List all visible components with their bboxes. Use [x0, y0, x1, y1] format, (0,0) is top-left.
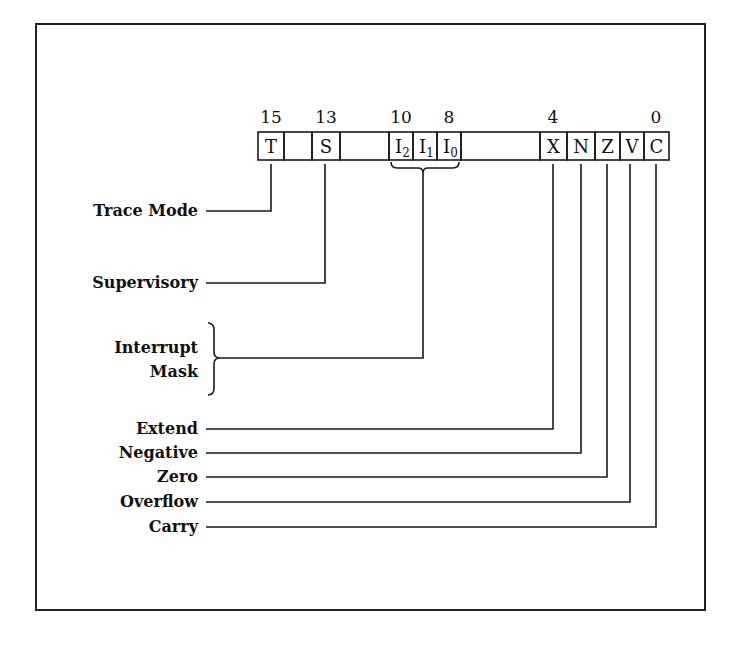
cell-label-s: S [320, 136, 332, 157]
bit-number-15: 15 [260, 107, 282, 127]
bit-number-10: 10 [390, 107, 412, 127]
label-negative: Negative [119, 443, 198, 462]
cell-label-i0: I0 [443, 136, 458, 160]
cell-label-z: Z [601, 136, 614, 157]
label-zero: Zero [157, 467, 198, 486]
connector-lines [206, 164, 656, 527]
overflow-connector [206, 164, 630, 502]
label-supervisory: Supervisory [92, 273, 198, 292]
cell-label-x: X [547, 136, 560, 157]
bit-number-13: 13 [315, 107, 337, 127]
bit-numbers: 15 13 10 8 4 0 [260, 107, 661, 127]
label-overflow: Overflow [120, 492, 199, 511]
cell-label-t: T [265, 136, 277, 157]
field-labels: Trace Mode Supervisory Interrupt Mask Ex… [92, 201, 199, 536]
label-carry: Carry [149, 517, 199, 536]
interrupt-mask-brace-icon [208, 323, 220, 395]
cell-label-n: N [573, 136, 589, 157]
cell-label-c: C [650, 136, 664, 157]
interrupt-bits-brace-icon [391, 162, 459, 173]
trace-connector [206, 164, 271, 211]
label-mask: Mask [150, 362, 199, 381]
bit-number-0: 0 [651, 107, 662, 127]
label-interrupt: Interrupt [114, 338, 198, 357]
cell-label-v: V [625, 136, 640, 157]
register-cells: T S I2 I1 I0 X N Z V C [258, 132, 669, 160]
negative-connector [206, 164, 581, 453]
status-register-diagram: 15 13 10 8 4 0 T S I2 I1 I0 X N Z V C [0, 0, 731, 648]
bit-number-8: 8 [444, 107, 455, 127]
extend-connector [206, 164, 553, 429]
label-extend: Extend [136, 419, 198, 438]
interrupt-connector [220, 173, 423, 358]
bit-number-4: 4 [548, 107, 559, 127]
cell-label-i2: I2 [395, 136, 410, 160]
cell-reserved-7-5 [461, 132, 540, 160]
label-trace-mode: Trace Mode [93, 201, 198, 220]
supervisory-connector [206, 164, 325, 283]
carry-connector [206, 164, 656, 527]
cell-reserved-14 [284, 132, 312, 160]
cell-reserved-12-11 [340, 132, 389, 160]
cell-label-i1: I1 [419, 136, 434, 160]
